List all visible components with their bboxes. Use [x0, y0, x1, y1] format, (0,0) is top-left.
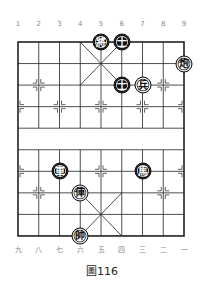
- position-marker: [95, 101, 99, 105]
- red-soldier-piece[interactable]: 兵: [134, 77, 151, 94]
- position-marker: [145, 109, 149, 113]
- position-marker: [157, 79, 161, 83]
- file-label-bottom: 五: [95, 244, 107, 254]
- file-label-top: 9: [178, 20, 190, 28]
- file-label-bottom: 九: [12, 244, 24, 254]
- position-marker: [62, 101, 66, 105]
- file-label-bottom: 二: [157, 244, 169, 254]
- position-marker: [62, 109, 66, 113]
- position-marker: [178, 165, 182, 169]
- position-marker: [165, 87, 169, 91]
- position-marker: [54, 109, 58, 113]
- position-marker: [178, 109, 182, 113]
- position-marker: [41, 195, 45, 199]
- position-marker: [20, 173, 24, 177]
- position-marker: [145, 101, 149, 105]
- file-label-bottom: 四: [116, 244, 128, 254]
- red-chariot-piece[interactable]: 俥: [72, 184, 89, 201]
- position-marker: [95, 165, 99, 169]
- position-marker: [20, 165, 24, 169]
- file-label-top: 3: [54, 20, 66, 28]
- file-label-top: 4: [74, 20, 86, 28]
- red-cannon-piece[interactable]: 炮: [176, 55, 193, 72]
- black-general-piece[interactable]: 將: [93, 34, 110, 51]
- position-marker: [33, 187, 37, 191]
- figure-caption: 圖116: [0, 262, 204, 278]
- position-marker: [33, 79, 37, 83]
- position-marker: [41, 87, 45, 91]
- file-label-top: 5: [95, 20, 107, 28]
- file-label-bottom: 六: [74, 244, 86, 254]
- position-marker: [33, 195, 37, 199]
- file-label-bottom: 三: [137, 244, 149, 254]
- file-label-top: 6: [116, 20, 128, 28]
- position-marker: [165, 195, 169, 199]
- position-marker: [157, 187, 161, 191]
- position-marker: [95, 173, 99, 177]
- position-marker: [103, 165, 107, 169]
- position-marker: [20, 109, 24, 113]
- position-marker: [178, 173, 182, 177]
- position-marker: [165, 79, 169, 83]
- file-label-bottom: 七: [54, 244, 66, 254]
- file-label-top: 1: [12, 20, 24, 28]
- black-advisor-piece[interactable]: 士: [113, 34, 130, 51]
- position-marker: [103, 101, 107, 105]
- black-advisor-piece[interactable]: 士: [113, 77, 130, 94]
- black-chariot-piece[interactable]: 車: [51, 163, 68, 180]
- position-marker: [137, 109, 141, 113]
- position-marker: [137, 101, 141, 105]
- position-marker: [157, 87, 161, 91]
- position-marker: [33, 87, 37, 91]
- position-marker: [103, 173, 107, 177]
- position-marker: [20, 101, 24, 105]
- position-marker: [157, 195, 161, 199]
- position-marker: [95, 109, 99, 113]
- file-label-top: 7: [137, 20, 149, 28]
- file-label-top: 8: [157, 20, 169, 28]
- position-marker: [41, 79, 45, 83]
- file-label-bottom: 一: [178, 244, 190, 254]
- position-marker: [54, 101, 58, 105]
- red-general-piece[interactable]: 帥: [72, 227, 89, 244]
- position-marker: [178, 101, 182, 105]
- black-horse-piece[interactable]: 馬: [134, 163, 151, 180]
- file-label-bottom: 八: [33, 244, 45, 254]
- position-marker: [41, 187, 45, 191]
- position-marker: [103, 109, 107, 113]
- position-marker: [165, 187, 169, 191]
- file-label-top: 2: [33, 20, 45, 28]
